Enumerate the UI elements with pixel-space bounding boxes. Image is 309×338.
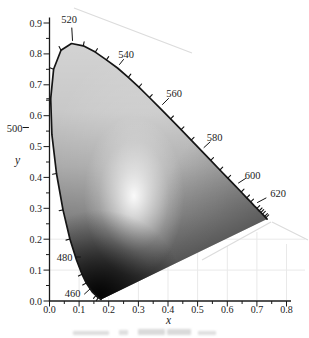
cie-chromaticity-diagram: 520 540 560 580 600 620 500 480 460 0.9 … [0, 0, 309, 338]
x-tick-0.3: 0.3 [132, 304, 145, 315]
y-tick-0.6: 0.6 [30, 110, 43, 121]
wavelength-label-460: 460 [65, 288, 81, 299]
wavelength-label-600: 600 [245, 170, 261, 181]
y-tick-0.1: 0.1 [30, 265, 43, 276]
y-tick-0.5: 0.5 [30, 141, 43, 152]
x-tick-0.8: 0.8 [280, 304, 293, 315]
x-tick-0.6: 0.6 [221, 304, 234, 315]
y-tick-0.2: 0.2 [30, 234, 43, 245]
y-tick-0.7: 0.7 [30, 79, 43, 90]
gamut-shading [40, 35, 275, 307]
y-axis-label: y [14, 154, 21, 167]
x-tick-0.0: 0.0 [43, 304, 56, 315]
wavelength-label-580: 580 [207, 132, 223, 143]
wavelength-label-480: 480 [57, 252, 73, 263]
y-tick-0.3: 0.3 [30, 203, 43, 214]
wavelength-label-540: 540 [118, 49, 134, 60]
x-tick-0.2: 0.2 [102, 304, 115, 315]
x-tick-0.1: 0.1 [73, 304, 86, 315]
y-tick-0.0: 0.0 [30, 296, 43, 307]
y-tick-0.9: 0.9 [30, 18, 43, 29]
wavelength-label-500: 500 [7, 123, 23, 134]
wavelength-label-620: 620 [270, 188, 286, 199]
cropped-caption-smudge [73, 329, 216, 335]
x-tick-0.5: 0.5 [191, 304, 204, 315]
y-tick-0.4: 0.4 [30, 172, 43, 183]
wavelength-label-560: 560 [166, 88, 182, 99]
x-axis-label: x [165, 314, 172, 326]
wavelength-label-520: 520 [61, 14, 77, 25]
y-tick-0.8: 0.8 [30, 48, 43, 59]
chromaticity-figure: 520 540 560 580 600 620 500 480 460 0.9 … [0, 0, 309, 338]
x-tick-0.7: 0.7 [251, 304, 264, 315]
